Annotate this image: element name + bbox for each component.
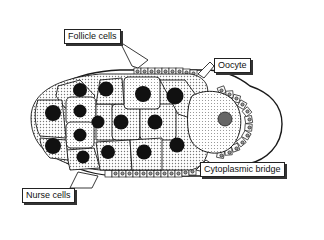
label-oocyte: Oocyte — [214, 58, 251, 73]
label-follicle-cells: Follicle cells — [64, 29, 121, 44]
label-nurse-cells: Nurse cells — [22, 188, 75, 203]
oocyte-nucleus — [218, 112, 232, 126]
oocyte-cell — [188, 91, 241, 153]
label-cytoplasmic-bridge: Cytoplasmic bridge — [200, 162, 285, 177]
